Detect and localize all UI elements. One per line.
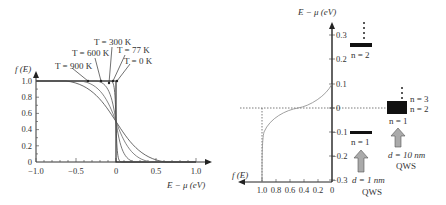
level-10nm-block: [387, 101, 407, 114]
y-axis-label: f (E): [15, 64, 31, 74]
energy-axis-label: E − μ (eV): [297, 7, 336, 17]
e-tick: −0.3: [332, 175, 347, 185]
e-tick: 0.3: [336, 30, 347, 40]
e-tick: 0.1: [336, 79, 347, 89]
label-1nm-n2: n = 2: [351, 50, 370, 60]
y-tick: 0.8: [21, 92, 32, 102]
label-t600: T = 600 K: [72, 48, 110, 58]
label-d1-qws: QWS: [362, 187, 382, 197]
f-tick: 0.6: [285, 185, 296, 195]
label-d10: d = 10 nm: [388, 150, 426, 160]
x-axis-arrow-icon: [205, 159, 212, 165]
x-axis-label: E − μ (eV): [166, 180, 205, 190]
y-tick: 0.2: [21, 141, 32, 151]
level-1nm-n2: [350, 43, 372, 47]
y-tick: 0.6: [21, 108, 32, 118]
label-10nm-n1: n = 1: [389, 116, 408, 126]
x-tick: 0: [114, 166, 118, 176]
fe-axis-label: f (E): [232, 170, 248, 180]
f-tick: 0.2: [313, 185, 324, 195]
label-1nm-n1: n = 1: [351, 137, 370, 147]
x-tick: −1.0: [28, 166, 43, 176]
fermi-curves: [36, 81, 196, 162]
e-tick: −0.2: [332, 151, 347, 161]
label-t0: T = 0 K: [124, 56, 153, 66]
f-tick: 0.4: [299, 185, 310, 195]
left-panel: T = 900 K T = 600 K T = 300 K T = 77 K T…: [15, 37, 212, 190]
e-tick: −0.1: [332, 127, 347, 137]
label-10nm-n2: n = 2: [410, 104, 429, 114]
f-tick: 0: [330, 185, 334, 195]
f-tick: 0.8: [271, 185, 282, 195]
label-t900: T = 900 K: [55, 61, 93, 71]
label-d10-qws: QWS: [396, 161, 416, 171]
figure: T = 900 K T = 600 K T = 300 K T = 77 K T…: [0, 0, 446, 205]
arrow-1nm-icon: [354, 150, 368, 172]
label-d1: d = 1 nm: [352, 175, 385, 185]
x-tick: 0.5: [151, 166, 162, 176]
x-tick: 1.0: [191, 166, 202, 176]
label-10nm-n3: n = 3: [410, 94, 429, 104]
e-tick: 0: [336, 103, 340, 113]
x-tick: −0.5: [68, 166, 83, 176]
level-1nm-n1: [350, 131, 372, 134]
y-tick: 1.0: [21, 76, 32, 86]
arrow-10nm-icon: [391, 128, 405, 147]
e-tick: 0.2: [336, 54, 347, 64]
label-t77: T = 77 K: [117, 45, 150, 55]
fermi-curve-rotated: [262, 84, 332, 182]
f-tick: 1.0: [257, 185, 268, 195]
y-axis-arrow-icon: [33, 71, 39, 78]
y-tick: 0.4: [21, 124, 32, 134]
energy-axis-arrow-icon: [329, 22, 335, 29]
right-panel: n = 2 n = 1 n = 3 n = 2 n = 1 d = 1 nm Q…: [232, 7, 429, 197]
